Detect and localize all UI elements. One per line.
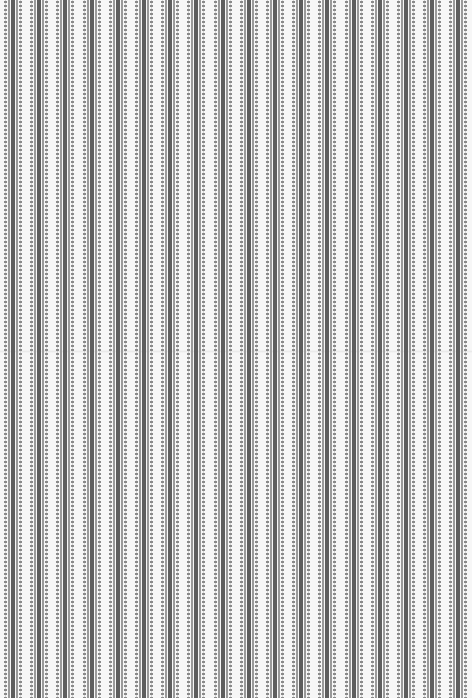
stripe-line-r (252, 0, 254, 698)
stripe-core (194, 0, 198, 698)
stripe-core (142, 0, 146, 698)
stripe-line-r (147, 0, 149, 698)
stripe (56, 0, 74, 698)
stripe-dots-r (412, 0, 415, 698)
stripe-line-r (226, 0, 228, 698)
stripe (30, 0, 48, 698)
stripe-line-l (165, 0, 167, 698)
stripe (371, 0, 389, 698)
stripe-line-l (113, 0, 115, 698)
stripe-dots-l (109, 0, 112, 698)
stripe-line-r (95, 0, 97, 698)
stripe-line-l (401, 0, 403, 698)
stripe (161, 0, 179, 698)
stripe (109, 0, 127, 698)
stripe-line-l (453, 0, 455, 698)
stripe-dots-l (4, 0, 7, 698)
stripe-line-r (173, 0, 175, 698)
stripe-line-l (139, 0, 141, 698)
stripe-dots-l (266, 0, 269, 698)
stripe-core (11, 0, 15, 698)
stripe-core (221, 0, 225, 698)
stripe-line-l (244, 0, 246, 698)
stripe-line-l (296, 0, 298, 698)
stripe-core (247, 0, 251, 698)
stripe-dots-l (449, 0, 452, 698)
stripe-dots-r (307, 0, 310, 698)
stripe-dots-l (397, 0, 400, 698)
stripe-dots-r (45, 0, 48, 698)
stripe-dots-l (187, 0, 190, 698)
stripe-core (430, 0, 434, 698)
stripe-core (299, 0, 303, 698)
stripe-core (404, 0, 408, 698)
stripe-dots-r (98, 0, 101, 698)
stripe-dots-l (371, 0, 374, 698)
stripe-line-l (218, 0, 220, 698)
stripe (345, 0, 363, 698)
stripe (397, 0, 415, 698)
stripe-dots-r (19, 0, 22, 698)
stripe-dots-l (345, 0, 348, 698)
stripe-dots-l (423, 0, 426, 698)
stripe-core (168, 0, 172, 698)
stripe-core (90, 0, 94, 698)
stripe-dots-l (318, 0, 321, 698)
stripe-core (378, 0, 382, 698)
stripe-dots-l (214, 0, 217, 698)
stripe-line-r (435, 0, 437, 698)
stripe (449, 0, 467, 698)
stripe-line-r (121, 0, 123, 698)
stripe-line-r (304, 0, 306, 698)
stripe-dots-r (281, 0, 284, 698)
stripe-line-r (383, 0, 385, 698)
stripe-dots-r (360, 0, 363, 698)
stripe-dots-r (255, 0, 258, 698)
stripe-dots-r (150, 0, 153, 698)
stripe-line-r (461, 0, 463, 698)
stripe-dots-r (229, 0, 232, 698)
stripe-line-l (270, 0, 272, 698)
stripe-dots-l (161, 0, 164, 698)
stripe-core (116, 0, 120, 698)
stripe-dots-r (124, 0, 127, 698)
stripe-dots-l (83, 0, 86, 698)
stripe-dots-r (464, 0, 467, 698)
stripe-dots-l (135, 0, 138, 698)
stripe-line-r (409, 0, 411, 698)
stripe-line-l (191, 0, 193, 698)
stripe (423, 0, 441, 698)
stripe-line-r (16, 0, 18, 698)
stripe (292, 0, 310, 698)
stripe (318, 0, 336, 698)
stripe-line-r (68, 0, 70, 698)
stripe-line-l (87, 0, 89, 698)
stripe-dots-l (30, 0, 33, 698)
stripe (240, 0, 258, 698)
stripe-dots-r (202, 0, 205, 698)
stripe-line-l (8, 0, 10, 698)
stripe-line-l (60, 0, 62, 698)
stripe (266, 0, 284, 698)
stripe-dots-l (240, 0, 243, 698)
stripe (214, 0, 232, 698)
stripe-core (325, 0, 329, 698)
stripe-line-r (330, 0, 332, 698)
stripe-line-r (357, 0, 359, 698)
striped-pattern (0, 0, 472, 698)
stripe (4, 0, 22, 698)
stripe-line-r (278, 0, 280, 698)
stripe-line-l (427, 0, 429, 698)
stripe-line-r (199, 0, 201, 698)
stripe-dots-r (333, 0, 336, 698)
stripe (187, 0, 205, 698)
stripe-dots-r (176, 0, 179, 698)
stripe-core (63, 0, 67, 698)
stripe-line-l (349, 0, 351, 698)
stripe (83, 0, 101, 698)
stripe-dots-r (71, 0, 74, 698)
stripe-line-l (375, 0, 377, 698)
stripe-dots-l (56, 0, 59, 698)
stripe-core (456, 0, 460, 698)
stripe-core (37, 0, 41, 698)
